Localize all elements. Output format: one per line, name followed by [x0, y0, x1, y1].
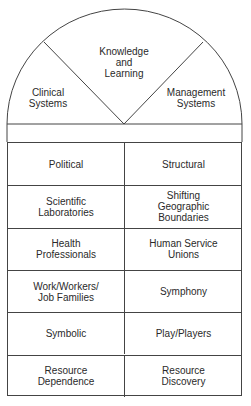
frames-grid: Political Structural Scientific Laborato…: [7, 142, 242, 396]
cell-work-workers-job-families: Work/Workers/ Job Families: [8, 271, 125, 312]
grid-row: Health Professionals Human Service Union…: [8, 228, 241, 270]
cell-symphony: Symphony: [125, 271, 242, 312]
cell-symbolic: Symbolic: [8, 313, 125, 354]
segment-clinical-systems: Clinical Systems: [29, 87, 67, 109]
cell-resource-dependence: Resource Dependence: [8, 356, 125, 397]
cell-political: Political: [8, 143, 125, 185]
cell-play-players: Play/Players: [125, 313, 242, 354]
grid-row: Work/Workers/ Job Families Symphony: [8, 270, 241, 312]
cell-resource-discovery: Resource Discovery: [125, 356, 242, 397]
cell-shifting-geographic-boundaries: Shifting Geographic Boundaries: [125, 186, 242, 227]
cell-structural: Structural: [125, 143, 242, 185]
segment-knowledge-learning: Knowledge and Learning: [99, 46, 148, 79]
cell-scientific-laboratories: Scientific Laboratories: [8, 186, 125, 227]
cell-health-professionals: Health Professionals: [8, 229, 125, 270]
grid-row: Resource Dependence Resource Discovery: [8, 355, 241, 397]
grid-row: Political Structural: [8, 143, 241, 185]
segment-management-systems: Management Systems: [167, 87, 225, 109]
grid-row: Scientific Laboratories Shifting Geograp…: [8, 185, 241, 227]
cell-human-service-unions: Human Service Unions: [125, 229, 242, 270]
grid-row: Symbolic Play/Players: [8, 312, 241, 354]
